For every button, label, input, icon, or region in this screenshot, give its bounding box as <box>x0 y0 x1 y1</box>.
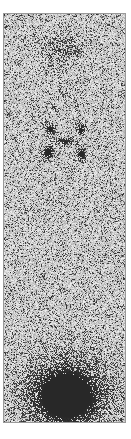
scan-canvas <box>4 14 125 422</box>
scintigraphy-image <box>3 13 126 423</box>
